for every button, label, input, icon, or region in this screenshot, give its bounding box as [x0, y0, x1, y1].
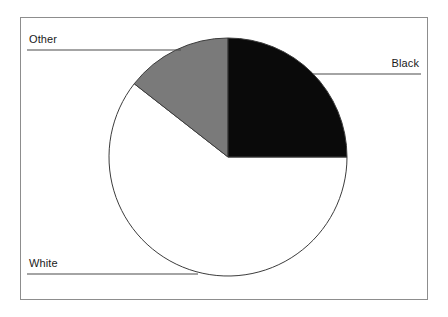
pie-chart-canvas — [0, 0, 448, 317]
pie-slice-black[interactable] — [228, 38, 347, 157]
pie-slices — [109, 38, 347, 276]
pie-chart-figure: Other Black White — [0, 0, 448, 317]
pie-label-black: Black — [392, 57, 419, 69]
pie-label-white: White — [29, 257, 58, 269]
pie-label-other: Other — [29, 33, 57, 45]
